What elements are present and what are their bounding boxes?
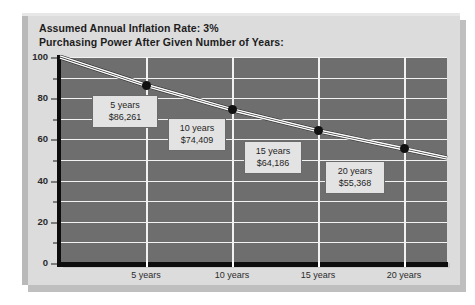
callout-amount-text: $86,261 [99,111,151,123]
data-callout-label: 10 years$74,409 [168,118,226,151]
callout-amount-text: $74,409 [175,134,219,146]
callout-years-text: 10 years [175,122,219,134]
callout-amount-text: $64,186 [251,157,295,169]
data-callout-label: 5 years$86,261 [92,95,158,128]
data-point-marker [142,81,151,90]
data-callout-label: 15 years$64,186 [244,141,302,174]
data-point-marker [314,126,323,135]
data-point-marker [228,105,237,114]
data-callout-label: 20 years$55,368 [325,161,385,194]
callout-years-text: 20 years [332,165,378,177]
data-point-marker [400,144,409,153]
callout-amount-text: $55,368 [332,177,378,189]
callout-years-text: 15 years [251,145,295,157]
callout-years-text: 5 years [99,99,151,111]
inflation-purchasing-power-chart: Assumed Annual Inflation Rate: 3% Purcha… [0,0,475,305]
